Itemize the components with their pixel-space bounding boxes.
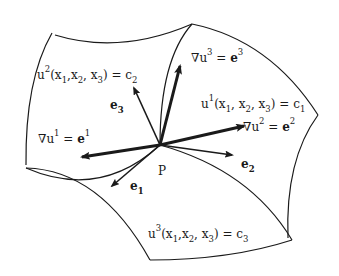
grad-u2-arrow bbox=[160, 126, 244, 145]
basis-label-e1: e1 bbox=[130, 179, 144, 196]
e3-arrow bbox=[134, 88, 160, 145]
point-label-p: P bbox=[158, 164, 166, 178]
gradient-label-u3: ∇u3 = e3 bbox=[191, 47, 243, 65]
basis-label-e3: e3 bbox=[110, 98, 124, 115]
svg-text:e3: e3 bbox=[110, 98, 124, 115]
gradient-label-u1: ∇u1 = e1 bbox=[38, 128, 90, 146]
svg-text:∇u2 = e2: ∇u2 = e2 bbox=[243, 116, 295, 134]
svg-text:∇u3 = e3: ∇u3 = e3 bbox=[191, 47, 243, 65]
gradient-label-u2: ∇u2 = e2 bbox=[243, 116, 295, 134]
surface-u3-bottom-edge bbox=[150, 240, 292, 260]
e2-arrow bbox=[160, 145, 232, 155]
grad-u3-arrow bbox=[160, 66, 180, 145]
surface-label-u2: u2(x1,x2, x3) = c2 bbox=[37, 64, 137, 85]
surface-label-u1: u1(x1, x2, x3) = c1 bbox=[201, 93, 305, 114]
basis-label-e2: e2 bbox=[241, 157, 255, 174]
surface-u2-top-edge bbox=[55, 24, 192, 43]
surface-u1-right-edge bbox=[288, 115, 318, 238]
svg-text:∇u1 = e1: ∇u1 = e1 bbox=[38, 128, 90, 146]
svg-text:u2(x1,x2, x3) = c2: u2(x1,x2, x3) = c2 bbox=[37, 64, 137, 85]
surface-label-u3: u3(x1,x2, x3) = c3 bbox=[148, 223, 248, 244]
curvilinear-coordinates-diagram: P u2(x1,x2, x3) = c2 u1(x1, x2, x3) = c1… bbox=[0, 0, 339, 276]
svg-text:e2: e2 bbox=[241, 157, 255, 174]
svg-text:e1: e1 bbox=[130, 179, 144, 196]
surface-u3-right-edge bbox=[160, 145, 292, 240]
svg-text:u3(x1,x2, x3) = c3: u3(x1,x2, x3) = c3 bbox=[148, 223, 248, 244]
svg-text:u1(x1, x2, x3) = c1: u1(x1, x2, x3) = c1 bbox=[201, 93, 305, 114]
